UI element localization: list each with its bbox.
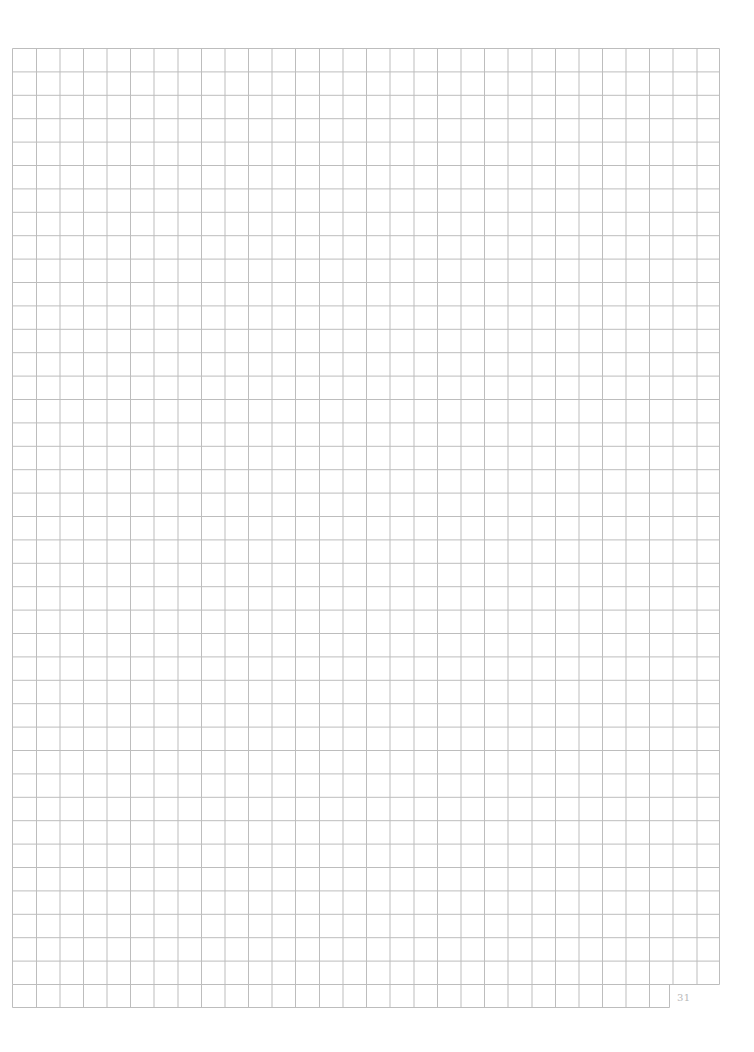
graph-paper-grid <box>0 0 754 1052</box>
page-number: 31 <box>677 992 691 1003</box>
